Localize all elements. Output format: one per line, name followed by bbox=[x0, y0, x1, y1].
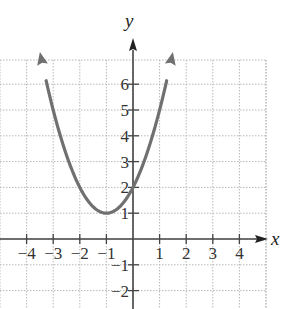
y-axis-arrow-icon bbox=[129, 38, 137, 51]
y-tick-label: 2 bbox=[121, 178, 130, 197]
y-tick-label: 1 bbox=[121, 204, 130, 223]
y-tick-label: 6 bbox=[121, 75, 130, 94]
y-tick-label: 3 bbox=[121, 153, 130, 172]
x-tick-label: −4 bbox=[18, 244, 37, 263]
x-tick-label: 4 bbox=[235, 244, 244, 263]
y-tick-label: −2 bbox=[111, 282, 129, 301]
y-tick-label: 4 bbox=[121, 127, 130, 146]
axes bbox=[0, 38, 268, 309]
left-curve-arrow-icon bbox=[37, 52, 48, 66]
y-tick-label: 5 bbox=[121, 101, 130, 120]
y-axis-label: y bbox=[123, 10, 134, 31]
x-tick-label: −3 bbox=[44, 244, 62, 263]
parabola-graph: −4−3−2−11234−2−1123456 x y bbox=[0, 0, 282, 309]
x-tick-label: 3 bbox=[209, 244, 218, 263]
x-tick-label: 2 bbox=[182, 244, 191, 263]
x-tick-label: −2 bbox=[71, 244, 89, 263]
x-axis-label: x bbox=[270, 228, 280, 249]
x-tick-label: 1 bbox=[155, 244, 164, 263]
right-curve-arrow-icon bbox=[165, 52, 176, 66]
y-tick-label: −1 bbox=[111, 256, 129, 275]
